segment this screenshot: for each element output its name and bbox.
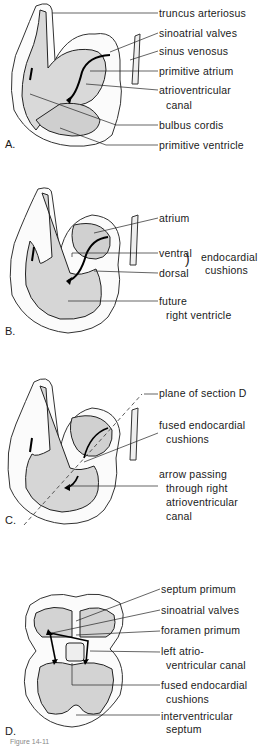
label-fused-endocardial-d: fused endocardial bbox=[161, 679, 247, 691]
label-through-right: through right bbox=[166, 482, 228, 494]
label-left-atrio: left atrio- bbox=[161, 645, 204, 657]
label-septum: septum bbox=[166, 723, 202, 735]
label-fused-endocardial: fused endocardial bbox=[159, 419, 245, 431]
figure-caption: Figure 14-11 bbox=[10, 738, 49, 745]
label-plane-of-section-d: plane of section D bbox=[159, 387, 247, 399]
label-endocardial: endocardial bbox=[201, 251, 258, 263]
label-atrioventricular-c: atrioventricular bbox=[166, 496, 238, 508]
label-right-ventricle: right ventricle bbox=[166, 309, 231, 321]
panel-c: plane of section D fused endocardial cus… bbox=[0, 370, 262, 555]
label-arrow-passing: arrow passing bbox=[159, 468, 227, 480]
panel-label-c: C. bbox=[5, 514, 16, 526]
panel-d: septum primum sinoatrial valves foramen … bbox=[0, 555, 262, 746]
label-septum-primum: septum primum bbox=[161, 583, 236, 595]
panel-label-d: D. bbox=[5, 725, 16, 737]
panel-b: ) atrium ventral dorsal endocardial cush… bbox=[0, 185, 262, 370]
label-canal: canal bbox=[166, 99, 192, 111]
label-ventricular-canal: ventricular canal bbox=[166, 659, 246, 671]
panel-a: truncus arteriosus sinoatrial valves sin… bbox=[0, 0, 262, 185]
label-sinus-venosus: sinus venosus bbox=[159, 45, 228, 57]
label-truncus-arteriosus: truncus arteriosus bbox=[159, 7, 246, 19]
label-atrium: atrium bbox=[159, 212, 189, 224]
label-dorsal: dorsal bbox=[159, 267, 189, 279]
label-bulbus-cordis: bulbus cordis bbox=[159, 119, 223, 131]
label-cushions: cushions bbox=[205, 264, 248, 276]
label-canal-c: canal bbox=[166, 510, 192, 522]
label-primitive-ventricle: primitive ventricle bbox=[159, 139, 244, 151]
label-ventral: ventral bbox=[159, 247, 192, 259]
heart-drawing-b: ) bbox=[0, 185, 262, 370]
label-sinoatrial-valves-d: sinoatrial valves bbox=[161, 604, 239, 616]
panel-label-a: A. bbox=[5, 138, 15, 150]
label-sinoatrial-valves: sinoatrial valves bbox=[159, 27, 237, 39]
label-cushions-d: cushions bbox=[166, 693, 209, 705]
label-cushions-c: cushions bbox=[166, 433, 209, 445]
label-atrioventricular: atrioventricular bbox=[159, 84, 231, 96]
label-future: future bbox=[159, 295, 187, 307]
label-primitive-atrium: primitive atrium bbox=[159, 65, 233, 77]
label-interventricular: interventricular bbox=[161, 710, 233, 722]
panel-label-b: B. bbox=[5, 325, 15, 337]
label-foramen-primum: foramen primum bbox=[161, 624, 240, 636]
